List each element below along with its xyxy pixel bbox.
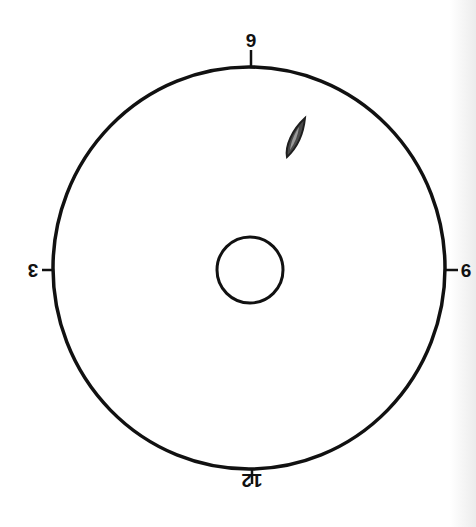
clock-diagram: 9 12 3 6 bbox=[0, 0, 476, 527]
label-left: 3 bbox=[28, 260, 39, 281]
outer-circle bbox=[53, 67, 445, 469]
lesion-marker bbox=[287, 118, 305, 157]
label-right: 6 bbox=[461, 260, 472, 281]
label-bottom: 12 bbox=[241, 470, 262, 491]
diagram-page: 9 12 3 6 bbox=[0, 0, 476, 527]
label-top: 9 bbox=[246, 30, 257, 51]
inner-circle bbox=[217, 237, 283, 303]
